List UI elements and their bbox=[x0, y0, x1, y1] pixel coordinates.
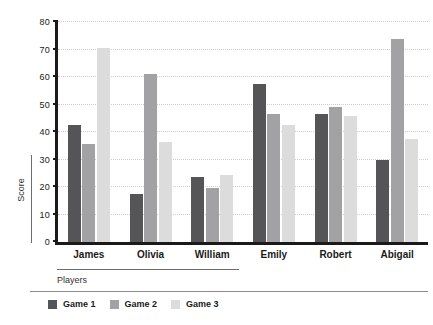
y-axis-title-rule bbox=[31, 155, 32, 243]
legend-item[interactable]: Game 1 bbox=[48, 299, 96, 309]
x-axis-line bbox=[55, 242, 428, 245]
y-tick-label: 70 bbox=[40, 45, 50, 55]
bar[interactable] bbox=[159, 142, 172, 242]
x-tick-label: James bbox=[73, 249, 104, 260]
y-gridline bbox=[58, 214, 428, 215]
legend-label: Game 3 bbox=[186, 299, 219, 309]
bar-group bbox=[253, 22, 295, 242]
legend-swatch-icon bbox=[171, 300, 180, 309]
y-tick-label: 60 bbox=[40, 72, 50, 82]
bar[interactable] bbox=[315, 114, 328, 242]
y-gridline bbox=[58, 76, 428, 77]
bar[interactable] bbox=[282, 125, 295, 242]
y-axis-title-wrap: Score bbox=[14, 130, 28, 250]
bar[interactable] bbox=[253, 84, 266, 242]
bar[interactable] bbox=[329, 107, 342, 242]
y-tick-label: 20 bbox=[40, 182, 50, 192]
y-tick-label: 0 bbox=[45, 237, 50, 247]
y-tick-mark bbox=[53, 130, 58, 132]
bar-group bbox=[376, 22, 418, 242]
y-tick-label: 10 bbox=[40, 210, 50, 220]
bar[interactable] bbox=[344, 116, 357, 243]
x-tick-label: Emily bbox=[260, 249, 287, 260]
chart-legend: Game 1Game 2Game 3 bbox=[48, 299, 219, 309]
legend-label: Game 1 bbox=[63, 299, 96, 309]
legend-swatch-icon bbox=[48, 300, 57, 309]
bar[interactable] bbox=[220, 175, 233, 242]
bar[interactable] bbox=[130, 194, 143, 242]
legend-item[interactable]: Game 2 bbox=[110, 299, 158, 309]
category-underline bbox=[57, 269, 239, 270]
y-tick-mark bbox=[53, 213, 58, 215]
legend-swatch-icon bbox=[110, 300, 119, 309]
y-gridline bbox=[58, 159, 428, 160]
bar[interactable] bbox=[191, 177, 204, 242]
x-axis-title: Players bbox=[57, 275, 87, 285]
x-tick-label: Olivia bbox=[137, 249, 164, 260]
y-tick-mark bbox=[53, 158, 58, 160]
bar[interactable] bbox=[267, 114, 280, 242]
y-tick-label: 40 bbox=[40, 127, 50, 137]
y-tick-label: 50 bbox=[40, 100, 50, 110]
bar-group bbox=[315, 22, 357, 242]
bar[interactable] bbox=[144, 74, 157, 242]
bar[interactable] bbox=[82, 144, 95, 242]
bar[interactable] bbox=[97, 48, 110, 242]
y-gridline bbox=[58, 21, 428, 22]
legend-label: Game 2 bbox=[125, 299, 158, 309]
y-gridline bbox=[58, 131, 428, 132]
y-tick-mark bbox=[53, 103, 58, 105]
x-tick-label: Robert bbox=[319, 249, 351, 260]
y-gridline bbox=[58, 104, 428, 105]
bar[interactable] bbox=[391, 39, 404, 243]
y-gridline bbox=[58, 186, 428, 187]
y-tick-mark bbox=[53, 75, 58, 77]
y-axis-title: Score bbox=[16, 178, 26, 202]
legend-divider bbox=[30, 291, 428, 292]
x-tick-label: William bbox=[195, 249, 230, 260]
y-tick-label: 80 bbox=[40, 17, 50, 27]
y-tick-mark bbox=[53, 240, 58, 242]
plot-area: 01020304050607080 bbox=[58, 22, 428, 242]
bar[interactable] bbox=[68, 125, 81, 242]
y-tick-mark bbox=[53, 185, 58, 187]
bar[interactable] bbox=[405, 139, 418, 242]
x-tick-label: Abigail bbox=[380, 249, 413, 260]
y-tick-mark bbox=[53, 20, 58, 22]
bar[interactable] bbox=[376, 160, 389, 243]
bar-group bbox=[68, 22, 110, 242]
y-gridline bbox=[58, 49, 428, 50]
bar-group bbox=[130, 22, 172, 242]
bar-group bbox=[191, 22, 233, 242]
bar[interactable] bbox=[206, 188, 219, 242]
y-tick-mark bbox=[53, 48, 58, 50]
legend-item[interactable]: Game 3 bbox=[171, 299, 219, 309]
y-tick-label: 30 bbox=[40, 155, 50, 165]
chart-page: 01020304050607080 JamesOliviaWilliamEmil… bbox=[0, 0, 433, 325]
